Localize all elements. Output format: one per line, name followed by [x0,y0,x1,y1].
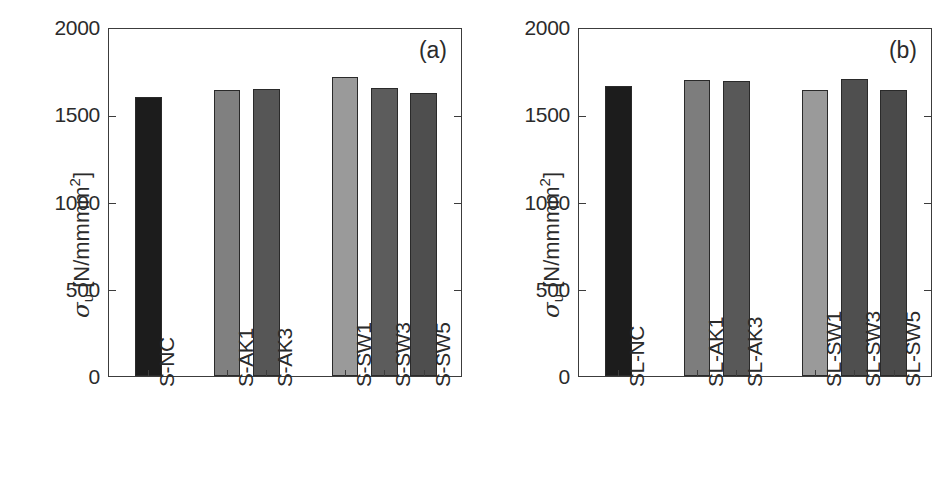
x-tick-label-sl-ak1: SL-AK1 [705,317,726,387]
x-tick-label-s-nc: S-NC [156,337,177,387]
y-tick-label: 500 [0,279,100,300]
sigma-symbol: σ [538,302,564,318]
y-tick-label: 2000 [0,17,100,38]
y-tick-label: 500 [470,279,570,300]
x-tick-mark [854,370,855,376]
x-tick-label-s-sw1: S-SW1 [353,322,374,387]
bar-s-nc [135,97,162,376]
x-tick-mark [148,370,149,376]
y-tick-label: 2000 [470,17,570,38]
x-tick-mark [697,370,698,376]
x-tick-label-s-sw5: S-SW5 [432,322,453,387]
y-tick-mark-right [924,203,931,204]
x-tick-label-sl-nc: SL-NC [626,326,647,387]
y-tick-mark-right [924,290,931,291]
sigma-symbol: σ [68,302,94,318]
x-tick-mark [894,370,895,376]
y-unit-exponent: 2 [66,178,83,186]
x-tick-mark [227,370,228,376]
y-tick-mark [109,203,116,204]
x-tick-mark [618,370,619,376]
y-tick-label: 1000 [470,192,570,213]
x-tick-label-sl-sw5: SL-SW5 [902,311,923,387]
y-tick-mark [579,116,586,117]
y-tick-mark [579,203,586,204]
y-tick-mark [579,290,586,291]
y-tick-mark-right [454,116,461,117]
y-tick-mark [109,290,116,291]
y-tick-label: 0 [470,366,570,387]
y-tick-mark [109,116,116,117]
x-tick-mark [345,370,346,376]
x-tick-label-sl-ak3: SL-AK3 [744,317,765,387]
figure-root: σu [N/mmmm2] (a) 0500100015002000 S-NCS-… [0,0,940,489]
panel-label-b: (b) [889,37,917,64]
y-tick-mark-right [454,290,461,291]
y-tick-label: 1000 [0,192,100,213]
chart-panel-a: σu [N/mmmm2] (a) 0500100015002000 S-NCS-… [0,0,470,489]
y-tick-label: 1500 [0,104,100,125]
x-tick-label-s-ak1: S-AK1 [235,328,256,387]
y-unit-exponent: 2 [536,178,553,186]
x-tick-mark [736,370,737,376]
y-tick-label: 1500 [470,104,570,125]
x-tick-label-s-sw3: S-SW3 [392,322,413,387]
x-tick-mark [424,370,425,376]
x-tick-mark [815,370,816,376]
panel-label-a: (a) [419,37,447,64]
x-tick-mark [384,370,385,376]
chart-panel-b: σu [N/mmmm2] (b) 0500100015002000 SL-NCS… [470,0,940,489]
x-tick-label-s-ak3: S-AK3 [274,328,295,387]
x-tick-mark [266,370,267,376]
x-tick-label-sl-sw3: SL-SW3 [862,311,883,387]
y-tick-mark-right [924,116,931,117]
y-unit-close: ] [69,171,94,177]
y-tick-mark-right [454,203,461,204]
y-unit-close: ] [539,171,564,177]
y-tick-label: 0 [0,366,100,387]
x-tick-label-sl-sw1: SL-SW1 [823,311,844,387]
